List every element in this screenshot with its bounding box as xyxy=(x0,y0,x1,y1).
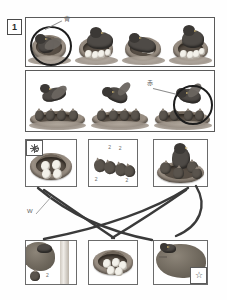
ground-shadow xyxy=(91,121,149,130)
egg-art xyxy=(42,169,51,179)
star-icon: ☆ xyxy=(195,271,203,280)
bird-body-art xyxy=(37,244,52,253)
sequence-cell-r1c2[interactable] xyxy=(73,18,120,66)
sequence-cell-r2c1[interactable] xyxy=(26,71,89,131)
sequence-cell-r2c3[interactable] xyxy=(151,71,214,131)
twig-art xyxy=(159,256,167,258)
chick-art xyxy=(131,110,140,121)
match-line-2[interactable] xyxy=(44,188,188,239)
panel-note: 2 xyxy=(95,177,98,182)
panel-art-adult-with-chicks xyxy=(154,140,207,186)
star-badge: ☆ xyxy=(190,267,207,284)
panel-note: 2 xyxy=(108,145,111,150)
annotation-label-connector: W xyxy=(27,208,33,214)
sun-icon xyxy=(30,144,39,153)
match-panel-p5[interactable] xyxy=(88,240,138,285)
match-panel-p1[interactable] xyxy=(25,139,77,187)
match-line-1[interactable] xyxy=(38,188,152,240)
chick-art xyxy=(192,168,202,179)
egg-art xyxy=(115,267,123,276)
worksheet-page: 1 xyxy=(0,0,227,300)
sequence-cell-r2c2[interactable] xyxy=(89,71,152,131)
match-line-4[interactable] xyxy=(44,190,114,238)
chick-art xyxy=(109,110,118,121)
nest-art xyxy=(30,153,72,181)
chick-art xyxy=(120,110,129,121)
chick-art xyxy=(173,167,184,179)
selection-circle-highlight xyxy=(173,85,213,125)
panel-art-fledglings: 2 2 2 2 xyxy=(89,140,137,186)
annotation-label-row2: 赤 xyxy=(147,80,153,86)
chick-art xyxy=(30,271,40,281)
panel-note: 2 xyxy=(119,146,122,151)
panel-note: 2 xyxy=(46,273,49,278)
sun-badge xyxy=(26,140,43,156)
adult-bird-head-art xyxy=(174,143,186,154)
chick-art xyxy=(159,110,168,121)
tree-trunk-art xyxy=(60,241,69,284)
sequence-cell-r1c4[interactable] xyxy=(167,18,214,66)
ground-shadow xyxy=(29,121,87,130)
match-line-5[interactable] xyxy=(176,186,202,236)
annotation-label-row1: 青 xyxy=(64,16,70,22)
question-number-box: 1 xyxy=(7,19,22,35)
chick-art xyxy=(35,110,44,121)
adult-bird-head-art xyxy=(40,84,50,93)
bird-head-art xyxy=(90,27,102,38)
ground-shadow xyxy=(122,56,165,65)
annotation-leader-line xyxy=(36,196,52,214)
match-line-3[interactable] xyxy=(112,190,186,238)
chick-art xyxy=(57,110,66,121)
feeding-sequence-strip xyxy=(25,70,215,132)
match-panel-p6[interactable]: ☆ xyxy=(153,240,208,285)
chick-art xyxy=(69,110,78,121)
panel-note: 2 xyxy=(125,178,128,183)
chick-art xyxy=(46,110,55,121)
selection-circle-highlight xyxy=(30,26,72,66)
egg-art xyxy=(105,49,111,56)
panel-art-nest-eggs-closeup xyxy=(89,241,137,284)
match-panel-p2[interactable]: 2 2 2 2 xyxy=(88,139,138,187)
egg-art xyxy=(53,169,62,179)
panel-art-tree-nest: 2 xyxy=(26,241,76,284)
egg-art xyxy=(199,48,205,55)
question-number: 1 xyxy=(12,23,17,32)
match-panel-p4[interactable]: 2 xyxy=(25,240,77,285)
sequence-cell-r1c3[interactable] xyxy=(120,18,167,66)
match-panel-p3[interactable] xyxy=(153,139,208,187)
